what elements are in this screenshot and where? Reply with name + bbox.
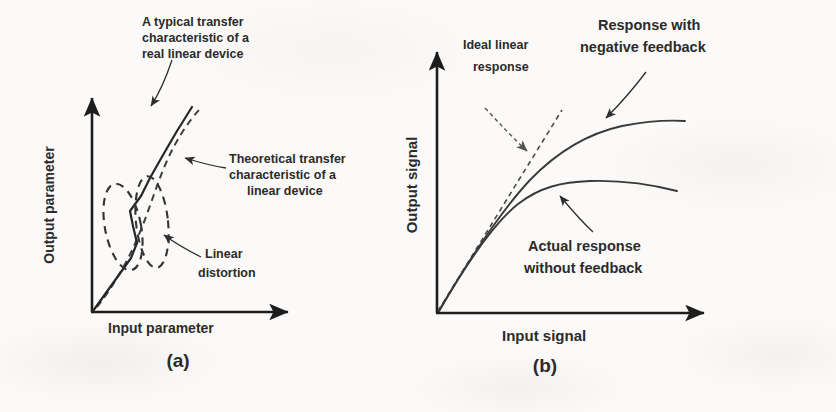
figure-svg: A typical transfer characteristic of a r… [0, 0, 836, 412]
panel-b-x-axis-label: Input signal [502, 327, 586, 344]
panel-b: Ideal linear response Response with nega… [403, 17, 707, 376]
panel-a-leader-distortion [164, 235, 201, 257]
panel-a-distortion-line2: distortion [198, 266, 256, 280]
panel-a-theoretical-line1: Theoretical transfer [229, 152, 346, 166]
panel-b-leader-actual [560, 196, 593, 232]
panel-a-real-line2: characteristic of a [142, 31, 250, 45]
panel-b-actual-line2: without feedback [523, 260, 643, 276]
panel-a-theoretical-line3: linear device [247, 184, 323, 198]
figure-root: A typical transfer characteristic of a r… [0, 0, 836, 412]
panel-a-annotation-distortion: Linear distortion [198, 247, 256, 280]
panel-a-annotation-theoretical: Theoretical transfer characteristic of a… [229, 152, 346, 198]
panel-a-caption: (a) [166, 350, 189, 371]
panel-a-leader-real [151, 60, 172, 106]
panel-a-annotation-real-device: A typical transfer characteristic of a r… [142, 15, 250, 61]
panel-a-real-curve [93, 107, 192, 311]
panel-b-actual-line1: Actual response [528, 238, 641, 254]
panel-b-y-axis-label: Output signal [403, 137, 420, 234]
panel-a-real-line1: A typical transfer [142, 15, 244, 29]
panel-a-axes [91, 98, 288, 312]
panel-a: A typical transfer characteristic of a r… [41, 15, 346, 371]
panel-b-leader-negative-feedback [606, 72, 646, 118]
panel-b-negative-feedback-curve [439, 121, 685, 311]
panel-b-annotation-ideal: Ideal linear response [463, 38, 529, 74]
panel-a-y-axis-label: Output parameter [41, 146, 57, 264]
panel-a-theoretical-curve [97, 110, 199, 307]
panel-b-negative-feedback-line1: Response with [598, 17, 700, 33]
panel-a-real-line3: real linear device [142, 47, 244, 61]
panel-b-negative-feedback-line2: negative feedback [580, 39, 707, 55]
panel-a-x-axis-label: Input parameter [108, 320, 214, 336]
panel-b-caption: (b) [533, 355, 557, 376]
panel-b-ideal-line1: Ideal linear [463, 38, 528, 52]
panel-a-leader-theoretical [185, 158, 226, 168]
panel-b-leader-ideal [485, 108, 527, 151]
panel-b-ideal-line2: response [473, 60, 529, 74]
panel-a-distortion-line1: Linear [205, 247, 243, 261]
panel-b-annotation-negative-feedback: Response with negative feedback [580, 17, 707, 55]
panel-a-theoretical-line2: characteristic of a [229, 168, 337, 182]
panel-b-annotation-actual: Actual response without feedback [523, 238, 643, 276]
panel-a-distortion-ellipse-right [131, 175, 172, 270]
